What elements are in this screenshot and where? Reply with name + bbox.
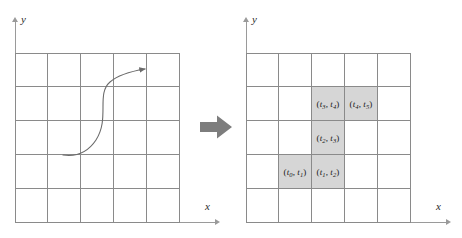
transform-arrow-icon [200, 116, 232, 139]
grid-cell [147, 121, 180, 155]
t-subscript-end: 2 [333, 170, 336, 177]
y-axis-arrowhead-icon [12, 17, 18, 22]
t-subscript-start: 1 [322, 170, 325, 177]
y-axis-label: y [21, 13, 26, 25]
comma: , [326, 132, 328, 142]
grid-cell-shaded-r4c3: (t1, t2) [312, 155, 345, 189]
grid-cell [345, 189, 378, 223]
grid-cell [246, 53, 279, 87]
grid-cell [279, 87, 312, 121]
close-paren: ) [336, 98, 339, 108]
close-paren: ) [336, 166, 339, 176]
grid-cell [147, 189, 180, 223]
grid-cell [279, 53, 312, 87]
t-subscript-end: 5 [366, 102, 369, 109]
cell-interval-label-r3c3: (t2, t3) [317, 133, 340, 142]
grid-cell [48, 155, 81, 189]
close-paren: ) [303, 166, 306, 176]
grid-cell [378, 189, 411, 223]
cell-interval-label-r2c4: (t4, t5) [350, 99, 373, 108]
grid-cell [147, 155, 180, 189]
grid-cell [15, 121, 48, 155]
grid-cell [147, 87, 180, 121]
t-subscript-start: 4 [355, 102, 358, 109]
grid-cell [279, 189, 312, 223]
grid-cell-shaded-r3c3: (t2, t3) [312, 121, 345, 155]
grid-cell [81, 155, 114, 189]
grid-cell [81, 189, 114, 223]
y-axis-arrowhead-icon [243, 17, 249, 22]
t-subscript-end: 1 [300, 170, 303, 177]
grid-cell [312, 53, 345, 87]
grid-cell [246, 155, 279, 189]
grid-cell-shaded-r2c3: (t3, t4) [312, 87, 345, 121]
comma: , [326, 166, 328, 176]
grid-cell [378, 87, 411, 121]
grid-cell [114, 87, 147, 121]
grid-cell [345, 121, 378, 155]
grid-cell [312, 189, 345, 223]
y-axis-label: y [252, 13, 257, 25]
parametric-curve-panel: y x [0, 0, 231, 238]
x-axis-label: x [205, 200, 210, 212]
grid-cell [15, 87, 48, 121]
grid-cell [81, 121, 114, 155]
t-subscript-start: 2 [322, 136, 325, 143]
grid-cell [279, 121, 312, 155]
grid-cell [378, 121, 411, 155]
grid-cell [147, 53, 180, 87]
grid-cell [345, 155, 378, 189]
grid-cell [114, 53, 147, 87]
grid-cell [48, 53, 81, 87]
grid-cell [378, 53, 411, 87]
grid-cell-shaded-r2c4: (t4, t5) [345, 87, 378, 121]
cell-interval-label-r4c3: (t1, t2) [317, 167, 340, 176]
grid-cell [48, 121, 81, 155]
t-subscript-start: 0 [289, 170, 292, 177]
grid-cell [48, 87, 81, 121]
grid-cell [15, 189, 48, 223]
grid-cell [378, 155, 411, 189]
grid-cell [345, 53, 378, 87]
right-grid: (t3, t4) (t4, t5) (t2, t3) (t0, t1) [246, 53, 411, 223]
cell-interval-label-r4c2: (t0, t1) [284, 167, 307, 176]
transform-arrow [199, 114, 233, 140]
t-subscript-end: 3 [333, 136, 336, 143]
grid-cell [246, 189, 279, 223]
left-grid-cells [15, 53, 180, 223]
grid-cell [15, 53, 48, 87]
t-subscript-start: 3 [322, 102, 325, 109]
comma: , [293, 166, 295, 176]
grid-cell [81, 87, 114, 121]
t-subscript-end: 4 [333, 102, 336, 109]
grid-cell [81, 53, 114, 87]
grid-cell-shaded-r4c2: (t0, t1) [279, 155, 312, 189]
grid-cell [114, 189, 147, 223]
cell-interval-label-r2c3: (t3, t4) [317, 99, 340, 108]
rasterized-cells-panel: y x (t3, t4) (t4, t5) [231, 0, 462, 238]
grid-cell [114, 155, 147, 189]
grid-cell [15, 155, 48, 189]
left-grid [15, 53, 180, 223]
comma: , [326, 98, 328, 108]
grid-cell [114, 121, 147, 155]
grid-cell [246, 87, 279, 121]
close-paren: ) [336, 132, 339, 142]
right-grid-cells: (t3, t4) (t4, t5) (t2, t3) (t0, t1) [246, 53, 411, 223]
figure-container: y x [0, 0, 462, 238]
x-axis-label: x [436, 200, 441, 212]
grid-cell [246, 121, 279, 155]
x-axis-arrowhead-icon [446, 219, 451, 225]
comma: , [359, 98, 361, 108]
grid-cell [48, 189, 81, 223]
x-axis-arrowhead-icon [215, 219, 220, 225]
close-paren: ) [369, 98, 372, 108]
